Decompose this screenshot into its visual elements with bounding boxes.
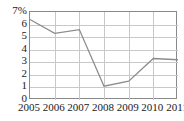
y-tick-label: 7% [0, 5, 27, 16]
x-tick-label: 2005 [18, 101, 40, 114]
data-series-line [30, 12, 178, 100]
x-tick-label: 2010 [141, 101, 163, 114]
y-tick-label: 1 [0, 80, 27, 91]
x-tick-label: 2006 [43, 101, 65, 114]
line-chart: 01234567% 2005200620072008200920102011 [0, 0, 184, 121]
x-tick-label: 2009 [117, 101, 139, 114]
y-tick-label: 5 [0, 30, 27, 41]
x-tick-label: 2011 [166, 101, 184, 114]
x-axis: 2005200620072008200920102011 [29, 101, 181, 117]
y-tick-label: 4 [0, 43, 27, 54]
y-tick-label: 3 [0, 55, 27, 66]
x-tick-label: 2008 [92, 101, 114, 114]
x-tick-label: 2007 [67, 101, 89, 114]
y-tick-label: 2 [0, 68, 27, 79]
y-tick-label: 6 [0, 18, 27, 29]
plot-area [29, 11, 177, 99]
